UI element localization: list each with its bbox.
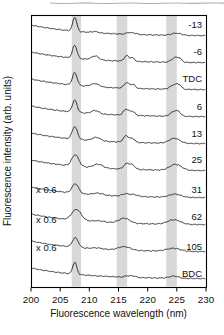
- shaded-band: [166, 16, 177, 287]
- trace-label: 6: [197, 101, 202, 112]
- x-tick-label: 225: [169, 294, 186, 305]
- x-tick-label: 210: [81, 294, 98, 305]
- trace-label: 62: [191, 211, 202, 222]
- trace-label: TDC: [182, 73, 202, 84]
- x-axis-label: Fluorescence wavelength (nm): [50, 308, 187, 319]
- scale-factor-label: x 0.6: [36, 242, 57, 253]
- y-axis-label: Fluorescence intensity (arb. units): [2, 76, 13, 226]
- spectra-figure: Fluorescence wavelength (nm) Fluorescenc…: [0, 0, 224, 335]
- x-tick-label: 205: [52, 294, 69, 305]
- x-tick-label: 200: [23, 294, 40, 305]
- trace-label: 25: [191, 154, 202, 165]
- scale-factor-label: x 0.6: [36, 184, 57, 195]
- chart-svg: Fluorescence wavelength (nm) Fluorescenc…: [0, 0, 224, 335]
- trace-label: -13: [188, 19, 202, 30]
- trace-label: 31: [191, 184, 202, 195]
- scale-factor-label: x 0.6: [36, 214, 57, 225]
- trace-label: 13: [191, 128, 202, 139]
- trace-label: 105: [186, 241, 202, 252]
- x-tick-label: 230: [198, 294, 215, 305]
- trace-label: BDC: [182, 268, 202, 279]
- x-tick-label: 215: [110, 294, 127, 305]
- trace-label: -6: [194, 46, 202, 57]
- scan-artifact-line: [50, 3, 224, 4]
- shaded-band: [72, 16, 81, 287]
- x-tick-label: 220: [140, 294, 157, 305]
